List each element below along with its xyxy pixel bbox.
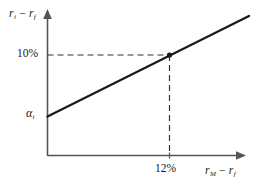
data-point-marker <box>167 52 172 57</box>
y-tick-label-10-percent: 10% <box>17 48 38 60</box>
alpha-symbol: α <box>26 106 32 120</box>
x-axis-arrowhead <box>236 151 246 160</box>
y-axis-label-term2: r <box>29 7 34 19</box>
characteristic-line <box>48 16 250 117</box>
x-axis-label-term2-sub: f <box>234 170 236 178</box>
x-axis-label-term1-sub: M <box>210 170 216 178</box>
y-axis <box>43 9 52 156</box>
x-axis-label: rM − rf <box>205 165 236 177</box>
y-axis-label-minus: − <box>16 7 29 19</box>
x-tick-label-12-percent: 12% <box>155 163 176 175</box>
plot-canvas <box>0 0 263 188</box>
alpha-intercept-label: αi <box>26 107 34 119</box>
y-axis-label-term1: r <box>9 7 14 19</box>
security-market-line-figure: ri − rf rM − rf 10% 12% αi <box>0 0 263 188</box>
y-axis-label-term1-sub: i <box>14 13 16 21</box>
y-axis-arrowhead <box>43 9 52 19</box>
x-axis-label-term2: r <box>229 164 234 176</box>
x-axis-label-minus: − <box>216 164 229 176</box>
y-axis-label-term2-sub: f <box>34 13 36 21</box>
y-axis-label: ri − rf <box>9 8 36 20</box>
x-axis <box>47 151 246 160</box>
x-axis-label-term1: r <box>205 164 210 176</box>
